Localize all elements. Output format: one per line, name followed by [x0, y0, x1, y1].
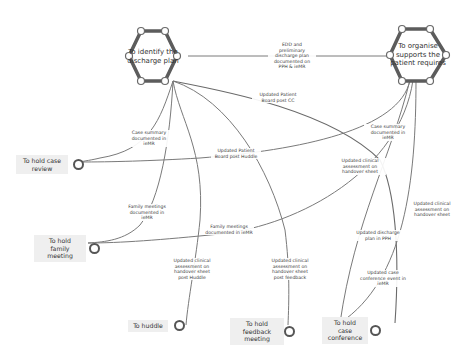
edge-label-clinical-handover: Updated clinical assessment on handover …	[334, 158, 386, 175]
task-node-icon[interactable]	[370, 325, 381, 336]
goal-label: To organise supports the patient require…	[390, 42, 446, 68]
task-case-review[interactable]: To hold case review	[16, 155, 84, 174]
edge-label-family-left: Family meetings documented in ieMR	[124, 204, 170, 221]
task-case-conference[interactable]: To hold case conference	[322, 317, 381, 344]
port-icon[interactable]	[399, 78, 406, 85]
edge-label-family-mid: Family meetings documented in ieMR	[204, 224, 254, 235]
port-icon[interactable]	[427, 26, 434, 33]
task-family-meeting[interactable]: To hold family meeting	[34, 235, 100, 262]
edge-label-discharge-pph: Updated discharge plan in PPH	[354, 230, 402, 241]
port-icon[interactable]	[138, 28, 145, 35]
port-icon[interactable]	[138, 78, 145, 85]
edge-label-clinical-handover-right: Updated clinical assessment on handover …	[408, 201, 456, 218]
port-icon[interactable]	[162, 78, 169, 85]
edge-label-pb-huddle: Updated Patient Board post Huddle	[211, 148, 261, 159]
edge-clinical-huddle	[173, 81, 201, 325]
edge-label-pb-cc: Updated Patient Board post CC	[252, 92, 304, 103]
task-label: To hold feedback meeting	[230, 318, 284, 345]
task-node-icon[interactable]	[89, 243, 100, 254]
edge-label-edd: EDD and preliminary discharge plan docum…	[268, 42, 316, 70]
edge-label-case-conference-event: Updated case conference event in ieMR	[358, 270, 408, 287]
edge-label-case-summary-left: Case summary documented in ieMR	[126, 130, 172, 147]
task-huddle[interactable]: To huddle	[128, 320, 185, 332]
task-label: To hold case review	[16, 155, 68, 174]
goal-label: To identify the discharge plan	[125, 48, 181, 65]
task-node-icon[interactable]	[174, 320, 185, 331]
port-icon[interactable]	[162, 28, 169, 35]
task-node-icon[interactable]	[73, 159, 84, 170]
edge-case-summary-left	[80, 81, 173, 162]
task-feedback-meeting[interactable]: To hold feedback meeting	[230, 318, 295, 345]
edge-label-case-summary-right: Case summary documented in ieMR	[364, 124, 412, 141]
edge-label-clinical-huddle: Updated clinical assessment on handover …	[168, 258, 216, 280]
port-icon[interactable]	[427, 78, 434, 85]
task-label: To hold family meeting	[34, 235, 86, 262]
edge-label-clinical-feedback: Updated clinical assessment on handover …	[266, 258, 314, 280]
task-label: To huddle	[128, 320, 168, 332]
task-label: To hold case conference	[322, 317, 368, 344]
task-node-icon[interactable]	[284, 326, 295, 337]
port-icon[interactable]	[399, 26, 406, 33]
